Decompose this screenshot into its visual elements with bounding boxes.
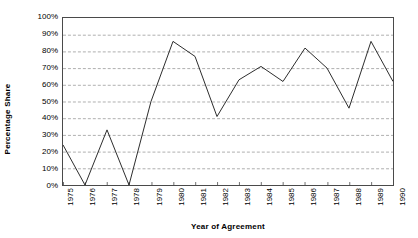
- x-axis-tick-label: 1989: [376, 188, 386, 218]
- plot-area: [62, 17, 394, 186]
- y-axis-tick-label: 100%: [18, 11, 58, 23]
- y-axis-tick-label: 40%: [18, 112, 58, 124]
- x-axis-tick-label: 1976: [88, 188, 98, 218]
- x-axis-tick-labels: 1975197619771978197919801981198219831984…: [62, 188, 394, 220]
- x-axis-ticks: [63, 182, 393, 185]
- x-axis-tick-label: 1987: [332, 188, 342, 218]
- y-axis-tick-label: 80%: [18, 45, 58, 57]
- y-axis-title: Percentage Share: [0, 0, 14, 238]
- data-line-percentage-share: [63, 41, 393, 185]
- chart-screenshot: Percentage Share 0%10%20%30%40%50%60%70%…: [0, 0, 418, 238]
- x-axis-tick-label: 1982: [221, 188, 231, 218]
- y-axis-tick-label: 70%: [18, 62, 58, 74]
- x-axis-tick-label: 1983: [243, 188, 253, 218]
- y-axis-tick-label: 20%: [18, 146, 58, 158]
- y-axis-tick-labels: 0%10%20%30%40%50%60%70%80%90%100%: [18, 11, 58, 186]
- x-axis-title: Year of Agreement: [62, 221, 394, 233]
- y-axis-tick-label: 50%: [18, 96, 58, 108]
- gridlines: [63, 35, 393, 169]
- x-axis-tick-label: 1978: [132, 188, 142, 218]
- x-axis-tick-label: 1975: [66, 188, 76, 218]
- x-axis-tick-label: 1980: [177, 188, 187, 218]
- y-axis-tick-label: 30%: [18, 129, 58, 141]
- chart-canvas: [63, 18, 393, 185]
- x-axis-tick-label: 1984: [265, 188, 275, 218]
- y-axis-tick-label: 10%: [18, 163, 58, 175]
- y-axis-tick-label: 60%: [18, 79, 58, 91]
- y-axis-tick-label: 90%: [18, 28, 58, 40]
- y-axis-tick-label: 0%: [18, 180, 58, 192]
- x-axis-tick-label: 1986: [309, 188, 319, 218]
- x-axis-tick-label: 1981: [199, 188, 209, 218]
- x-axis-tick-label: 1990: [398, 188, 408, 218]
- x-axis-tick-label: 1988: [354, 188, 364, 218]
- x-axis-tick-label: 1979: [155, 188, 165, 218]
- x-axis-tick-label: 1985: [287, 188, 297, 218]
- x-axis-tick-label: 1977: [110, 188, 120, 218]
